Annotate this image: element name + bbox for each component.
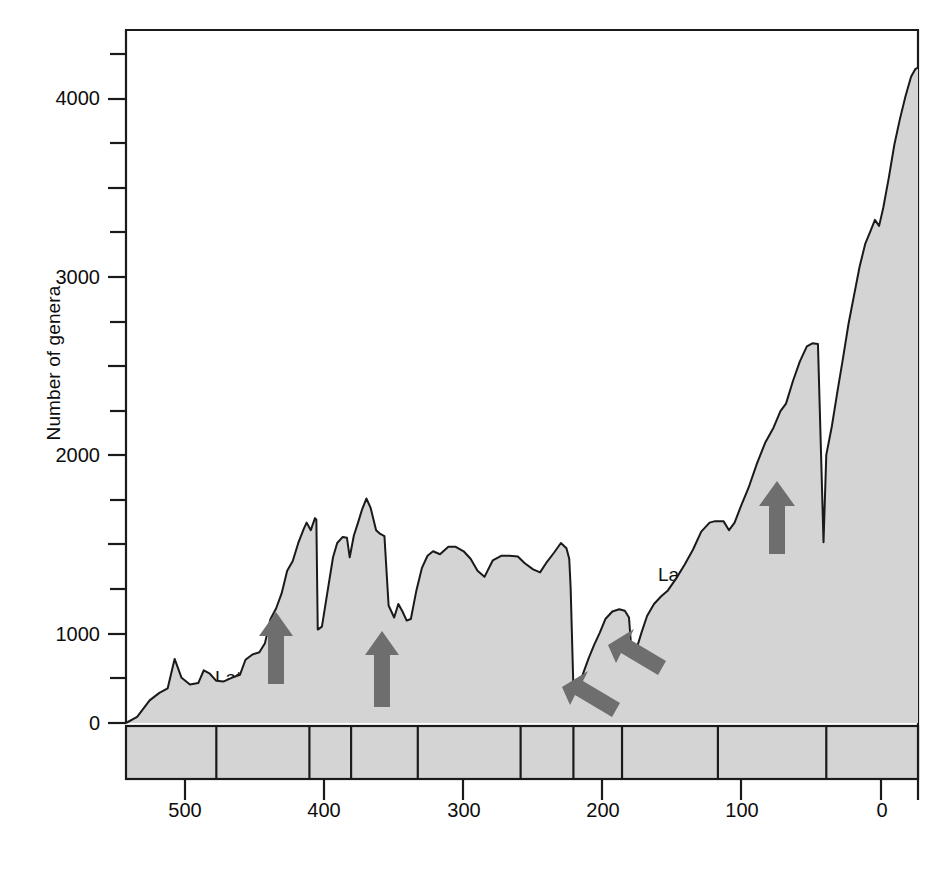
y-axis-ticks (108, 54, 126, 723)
diversity-area (126, 68, 918, 723)
chart-canvas (0, 0, 933, 886)
diversity-curve-figure: Number of genera 4000 3000 2000 1000 0 5… (0, 0, 933, 886)
geologic-timescale-strip (126, 726, 918, 779)
